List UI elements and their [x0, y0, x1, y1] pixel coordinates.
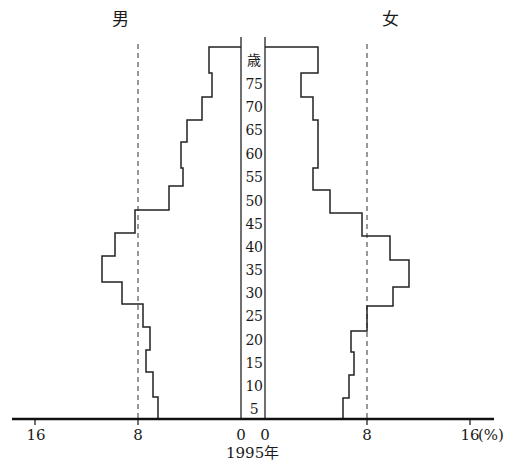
- age-label-40: 40: [244, 240, 264, 254]
- age-label-5: 5: [244, 402, 264, 416]
- age-label-unit: 歳: [244, 53, 264, 67]
- age-label-75: 75: [244, 77, 264, 91]
- age-label-35: 35: [244, 263, 264, 277]
- tick-label-right-8: 8: [362, 426, 372, 444]
- age-label-15: 15: [244, 356, 264, 370]
- age-label-60: 60: [244, 147, 264, 161]
- age-label-70: 70: [244, 100, 264, 114]
- tick-label-right-16: 16: [460, 426, 479, 444]
- age-label-50: 50: [244, 194, 264, 208]
- tick-label-left-8: 8: [133, 426, 143, 444]
- age-label-55: 55: [244, 170, 264, 184]
- age-label-20: 20: [244, 333, 264, 347]
- tick-label-left-16: 16: [26, 426, 45, 444]
- age-label-25: 25: [244, 309, 264, 323]
- age-label-45: 45: [244, 217, 264, 231]
- unit-label: (%): [478, 426, 504, 444]
- female-distribution-outline: [265, 47, 409, 419]
- year-caption: 1995年: [226, 441, 279, 462]
- male-distribution-outline: [102, 47, 241, 419]
- age-label-65: 65: [244, 123, 264, 137]
- age-label-10: 10: [244, 379, 264, 393]
- age-label-30: 30: [244, 286, 264, 300]
